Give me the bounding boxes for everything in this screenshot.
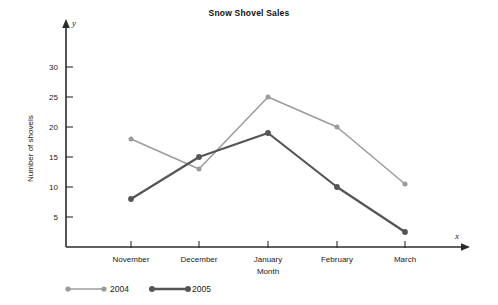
y-tick-label-10: 10 — [49, 183, 58, 192]
chart-plot-area: y x 30 25 20 15 10 5 Number of shovels — [0, 0, 498, 305]
y-axis: y — [62, 18, 76, 247]
x-tick-label-december: December — [181, 255, 218, 264]
x-tick-label-january: January — [254, 255, 282, 264]
data-point-2005-March — [402, 229, 408, 235]
legend-item-2005 — [149, 286, 191, 292]
legend-swatch-marker-2004-0 — [65, 286, 70, 291]
data-series-layer — [128, 95, 408, 235]
y-axis-arrow-icon — [62, 19, 70, 28]
series-2005 — [128, 130, 408, 235]
data-point-2004-November — [129, 137, 134, 142]
x-tick-label-november: November — [113, 255, 150, 264]
x-axis-arrow-icon — [461, 243, 470, 251]
data-point-2004-January — [266, 95, 271, 100]
y-tick-label-15: 15 — [49, 153, 58, 162]
y-tick-label-5: 5 — [54, 213, 59, 222]
x-tick-label-february: February — [321, 255, 353, 264]
legend-swatch-marker-2005-1 — [185, 286, 191, 292]
y-axis-title: Number of shovels — [26, 115, 35, 182]
x-axis-name-label: x — [454, 231, 459, 241]
legend-item-2004 — [65, 286, 106, 291]
y-tick-label-30: 30 — [49, 63, 58, 72]
series-line-2004 — [131, 97, 405, 184]
x-axis-labels: November December January February March — [113, 255, 417, 264]
y-tick-label-20: 20 — [49, 123, 58, 132]
legend-label-2004: 2004 — [110, 284, 129, 294]
legend-swatch-marker-2005-0 — [149, 286, 155, 292]
data-point-2005-January — [265, 130, 271, 136]
data-point-2004-February — [335, 125, 340, 130]
y-tick-label-25: 25 — [49, 93, 58, 102]
series-line-2005 — [131, 133, 405, 232]
legend-label-2005: 2005 — [192, 284, 211, 294]
x-axis-title: Month — [257, 267, 279, 276]
series-2004 — [129, 95, 408, 187]
y-axis-name-label: y — [71, 18, 76, 28]
data-point-2004-December — [197, 167, 202, 172]
data-point-2005-November — [128, 196, 134, 202]
data-point-2005-February — [334, 184, 340, 190]
y-axis-ticks: 30 25 20 15 10 5 — [49, 63, 73, 222]
chart-figure: Snow Shovel Sales y x 30 25 20 15 10 — [0, 0, 498, 305]
legend-swatch-marker-2004-1 — [101, 286, 106, 291]
data-point-2004-March — [403, 182, 408, 187]
data-point-2005-December — [196, 154, 202, 160]
x-tick-label-march: March — [394, 255, 416, 264]
